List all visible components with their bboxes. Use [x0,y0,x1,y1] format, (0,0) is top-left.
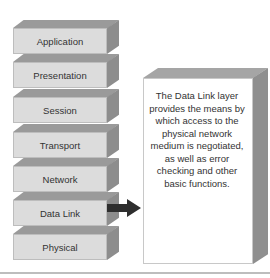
layer-physical: Physical [13,226,107,260]
description-box: The Data Link layer provides the means b… [143,68,268,264]
layer-application: Application [13,20,107,54]
layer-label: Transport [13,132,107,158]
layer-network: Network [13,158,107,192]
description-text: The Data Link layer provides the means b… [147,90,247,190]
layer-presentation: Presentation [13,54,107,88]
layer-label: Session [13,97,107,123]
layer-label: Application [13,28,107,54]
divider [0,272,270,274]
arrow-right-icon [107,199,141,217]
layer-label: Physical [13,234,107,260]
layer-transport: Transport [13,124,107,158]
layer-label: Network [13,166,107,192]
layer-session: Session [13,89,107,123]
layer-label: Data Link [13,200,107,226]
layer-data-link: Data Link [13,192,107,226]
layer-label: Presentation [13,62,107,88]
